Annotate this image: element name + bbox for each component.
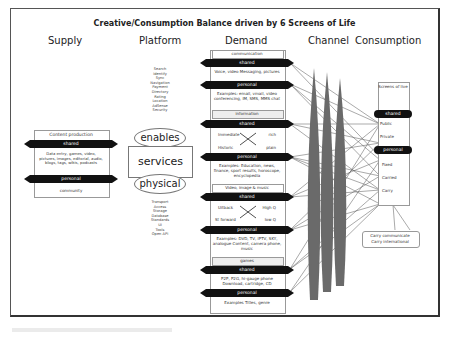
consumption-item-carry: Carry (382, 188, 406, 193)
consumption-shared-band: shared (374, 110, 412, 118)
demand-games-shared-text: P2P, P2G, hi-gauge phone Download, cartr… (212, 276, 282, 286)
platform-item: Open API (140, 232, 180, 237)
demand-box (210, 50, 286, 314)
video-attr-low-q: low Q (258, 217, 276, 222)
info-attr-rich: rich (260, 132, 276, 137)
consumption-item-fixed: Fixed (382, 162, 406, 167)
supply-header: Content production (34, 132, 108, 137)
demand-games-personal-text: Examples Titles, genre (212, 300, 282, 305)
info-attr-historic: Historic (218, 145, 240, 150)
demand-video-personal-text: Examples: DVD, TV, IPTV, SKY, analogue C… (212, 236, 282, 251)
demand-information-header: information (212, 111, 282, 116)
demand-communication-header: communication (212, 51, 282, 56)
consumption-personal-band: personal (374, 146, 412, 154)
demand-information-personal-text: Examples: Education, news, finance, spor… (212, 163, 282, 178)
demand-video-personal-band: personal (200, 226, 294, 234)
info-attr-immediate: Immediate (218, 132, 240, 137)
callout-carry-communicate: Carry communicate (362, 233, 418, 238)
enables-oval: enables (134, 128, 186, 148)
callout-carry-international: Carry international (362, 239, 418, 244)
video-attr-st-forward: St forward (215, 217, 239, 222)
video-attr-high-q: High Q (258, 205, 276, 210)
consumption-item-private: Private (380, 134, 406, 139)
cross-arrows-icon (238, 204, 258, 220)
consumption-item-carried: Carried (382, 175, 406, 180)
platform-item: Security (140, 108, 180, 113)
supply-shared-band: shared (24, 140, 118, 148)
demand-games-personal-band: personal (200, 289, 294, 297)
figure-caption (12, 328, 172, 332)
demand-communication-personal-text: Examples: email, vmail, video conferenci… (212, 91, 282, 101)
consumption-item-public: Public (380, 121, 406, 126)
demand-information-shared-band: shared (200, 120, 294, 128)
supply-personal-text: community (34, 188, 108, 193)
demand-video-shared-band: shared (200, 193, 294, 201)
demand-communication-personal-band: personal (200, 81, 294, 89)
supply-personal-band: personal (24, 175, 118, 183)
platform-lower-list: Transport Access Storage Database Standa… (140, 200, 180, 237)
demand-information-personal-band: personal (200, 153, 294, 161)
platform-upper-list: Search Identify Sync Navigation Payment … (140, 67, 180, 113)
physical-oval: physical (134, 174, 186, 194)
consumption-header: Screens of live (378, 84, 408, 89)
channel-pillar-3 (334, 78, 347, 286)
supply-shared-text: Data entry, games, video, pictures, imag… (38, 152, 104, 166)
video-attr-uitback: Uitback (218, 205, 238, 210)
channel-pillar-2 (321, 72, 334, 292)
demand-communication-shared-band: shared (200, 59, 294, 67)
info-attr-plain: plain (260, 145, 276, 150)
cross-arrows-icon (238, 131, 258, 147)
demand-games-header: games (212, 258, 282, 263)
demand-video-header: Video, image & music (212, 185, 282, 190)
channel-pillar-1 (308, 68, 321, 300)
demand-communication-shared-text: Voice, video Messaging, pictures (212, 69, 282, 74)
demand-games-shared-band: shared (200, 266, 294, 274)
